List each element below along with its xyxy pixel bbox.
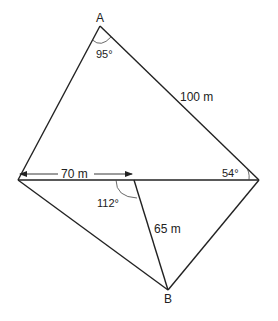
- angle-label-112: 112°: [97, 197, 119, 209]
- angle-label-A: 95°: [96, 48, 113, 60]
- side-label-70m: 70 m: [61, 167, 88, 181]
- angle-arc-right: [245, 166, 249, 180]
- vertex-label-A: A: [96, 11, 104, 25]
- side-label-65m: 65 m: [154, 222, 181, 236]
- vertex-label-B: B: [164, 292, 172, 306]
- angle-arc-junction: [116, 180, 137, 198]
- quadrilateral-outline: [18, 26, 259, 290]
- geometry-diagram: A 95° 100 m 70 m 54° 112° 65 m B: [0, 0, 278, 321]
- side-right-B: [168, 180, 259, 290]
- side-label-100m: 100 m: [180, 90, 213, 104]
- angle-label-54: 54°: [222, 167, 239, 179]
- side-A-left: [18, 26, 100, 180]
- angle-arc-A: [93, 37, 112, 43]
- side-left-B: [18, 180, 168, 290]
